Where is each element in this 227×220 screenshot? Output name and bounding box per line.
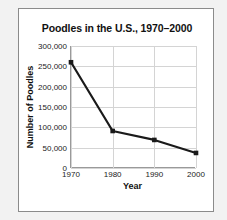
- x-axis-tick-label: 1970: [62, 170, 80, 179]
- data-point-marker: [69, 60, 74, 65]
- y-axis-tick-label: 150,000: [38, 103, 67, 112]
- y-axis-tick-label: 300,000: [38, 42, 67, 51]
- data-point-marker: [152, 138, 157, 143]
- y-axis-tick-label: 50,000: [43, 143, 67, 152]
- y-axis-tick-label: 200,000: [38, 82, 67, 91]
- x-axis-title: Year: [70, 181, 195, 191]
- plot-area: 050,000100,000150,000200,000250,000300,0…: [70, 46, 195, 168]
- y-axis-title: Number of Poodles: [25, 46, 39, 168]
- gridline-horizontal: [71, 168, 196, 169]
- x-axis-tick-label: 2000: [187, 170, 205, 179]
- y-axis-tick-label: 250,000: [38, 62, 67, 71]
- chart-title: Poodles in the U.S., 1970–2000: [19, 22, 215, 34]
- poodles-line: [71, 62, 196, 153]
- chart-figure-frame: Poodles in the U.S., 1970–2000 Number of…: [18, 8, 214, 212]
- x-axis-tick-label: 1990: [145, 170, 163, 179]
- chart-figure-background: Poodles in the U.S., 1970–2000 Number of…: [0, 0, 227, 220]
- poodles-data-markers: [69, 60, 199, 155]
- y-axis-tick-label: 100,000: [38, 123, 67, 132]
- data-point-marker: [110, 129, 115, 134]
- x-axis-tick-label: 1980: [104, 170, 122, 179]
- data-series-line: [71, 46, 196, 168]
- data-point-marker: [194, 151, 199, 156]
- gridline-vertical: [196, 46, 197, 168]
